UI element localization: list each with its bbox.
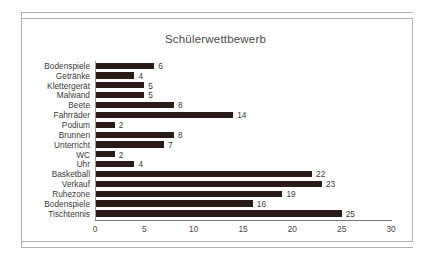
bar-row: Klettergerät5: [95, 81, 391, 91]
bar-value-label: 25: [346, 209, 355, 218]
bar-value-label: 4: [138, 160, 143, 169]
bar-fill: [95, 122, 115, 128]
bar-row: Ruhezone19: [95, 189, 391, 199]
bar-value-label: 19: [286, 189, 295, 198]
bar-category-label: Ruhezone: [52, 189, 90, 198]
bar-category-label: WC: [76, 150, 90, 159]
bar-row: Verkauf23: [95, 179, 391, 189]
bar-category-label: Getränke: [56, 71, 90, 80]
bar-fill: [95, 72, 134, 78]
bar-value-label: 5: [148, 81, 153, 90]
chart-title: Schülerwettbewerb: [0, 33, 431, 45]
bar-row: Uhr4: [95, 160, 391, 170]
bar-fill: [95, 132, 174, 138]
bar-row: Getränke4: [95, 71, 391, 81]
bar-value-label: 2: [119, 150, 124, 159]
bar-fill: [95, 141, 164, 147]
x-axis-tick-labels: 051015202530: [95, 224, 391, 238]
bar-category-label: Beete: [68, 101, 90, 110]
x-axis-line: [95, 220, 392, 221]
bar-value-label: 7: [168, 140, 173, 149]
bar-value-label: 8: [178, 101, 183, 110]
bar-category-label: Verkauf: [62, 180, 90, 189]
bar-value-label: 16: [257, 199, 266, 208]
bar-fill: [95, 92, 144, 98]
bar-category-label: Basketball: [52, 170, 90, 179]
x-tick-label: 25: [337, 224, 346, 234]
bar-value-label: 4: [138, 71, 143, 80]
x-tick-label: 5: [142, 224, 147, 234]
bar-fill: [95, 161, 134, 167]
bar-chart: Schülerwettbewerb Bodenspiele6Getränke4K…: [0, 0, 431, 261]
bar-category-label: Bodenspiele: [44, 199, 90, 208]
bar-value-label: 8: [178, 130, 183, 139]
bar-row: Podium2: [95, 120, 391, 130]
bar-value-label: 14: [237, 111, 246, 120]
bar-fill: [95, 200, 253, 206]
x-tick-label: 15: [238, 224, 247, 234]
bar-category-label: Podium: [62, 120, 90, 129]
bar-category-label: Klettergerät: [47, 81, 90, 90]
bar-value-label: 23: [326, 180, 335, 189]
bar-value-label: 5: [148, 91, 153, 100]
bar-category-label: Malwand: [57, 91, 90, 100]
bar-category-label: Bodenspiele: [44, 61, 90, 70]
bar-category-label: Tischtennis: [48, 209, 90, 218]
y-axis-line: [95, 61, 96, 220]
bar-fill: [95, 102, 174, 108]
bar-row: Tischtennis25: [95, 209, 391, 219]
bar-category-label: Fahrräder: [54, 111, 90, 120]
bar-category-label: Brunnen: [59, 130, 90, 139]
bar-row: Brunnen8: [95, 130, 391, 140]
x-tick-label: 30: [386, 224, 395, 234]
bar-fill: [95, 63, 154, 69]
bar-fill: [95, 210, 342, 216]
bar-fill: [95, 181, 322, 187]
plot-area: Bodenspiele6Getränke4Klettergerät5Malwan…: [95, 61, 391, 219]
bar-row: Unterricht7: [95, 140, 391, 150]
x-tick-label: 0: [93, 224, 98, 234]
bar-category-label: Uhr: [77, 160, 90, 169]
bar-fill: [95, 151, 115, 157]
bar-fill: [95, 191, 282, 197]
bar-category-label: Unterricht: [54, 140, 90, 149]
bar-fill: [95, 82, 144, 88]
bar-value-label: 6: [158, 61, 163, 70]
bar-value-label: 22: [316, 170, 325, 179]
bar-row: Malwand5: [95, 91, 391, 101]
bar-row: Fahrräder14: [95, 110, 391, 120]
x-tick-label: 20: [288, 224, 297, 234]
x-tick-label: 10: [189, 224, 198, 234]
bar-row: Basketball22: [95, 169, 391, 179]
bar-value-label: 2: [119, 120, 124, 129]
bar-fill: [95, 112, 233, 118]
bar-fill: [95, 171, 312, 177]
